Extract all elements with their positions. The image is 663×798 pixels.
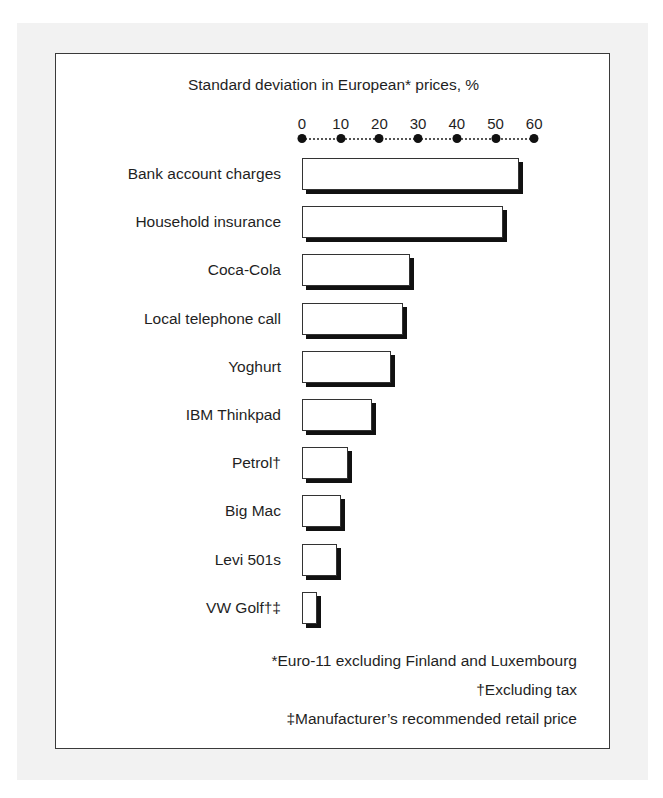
bar-row: Big Mac: [56, 495, 611, 529]
bar-row: Levi 501s: [56, 544, 611, 578]
bar: [302, 351, 391, 383]
bar: [302, 447, 348, 479]
x-tick-label: 40: [448, 115, 465, 132]
bar-row: Bank account charges: [56, 158, 611, 192]
chart-title: Standard deviation in European* prices, …: [56, 76, 611, 94]
bar: [302, 303, 403, 335]
bar: [302, 206, 503, 238]
category-label: IBM Thinkpad: [186, 406, 281, 424]
bar: [302, 254, 410, 286]
bar-row: IBM Thinkpad: [56, 399, 611, 433]
x-tick-dot-icon: [298, 134, 307, 143]
bar-row: Household insurance: [56, 206, 611, 240]
bar: [302, 544, 337, 576]
bar-row: VW Golf†‡: [56, 592, 611, 626]
bar-row: Petrol†: [56, 447, 611, 481]
bar-row: Coca-Cola: [56, 254, 611, 288]
x-tick-dot-icon: [452, 134, 461, 143]
bar: [302, 495, 341, 527]
x-tick-dot-icon: [491, 134, 500, 143]
x-tick-label: 0: [298, 115, 306, 132]
category-label: Coca-Cola: [208, 261, 281, 279]
x-tick-label: 50: [487, 115, 504, 132]
bar-row: Local telephone call: [56, 303, 611, 337]
chart-frame: Standard deviation in European* prices, …: [55, 53, 610, 749]
bar: [302, 399, 372, 431]
category-label: Levi 501s: [215, 551, 281, 569]
category-label: Big Mac: [225, 502, 281, 520]
category-label: Local telephone call: [144, 310, 281, 328]
x-tick-dot-icon: [336, 134, 345, 143]
category-label: Yoghurt: [228, 358, 281, 376]
x-tick-label: 30: [410, 115, 427, 132]
bar: [302, 592, 317, 624]
category-label: Bank account charges: [128, 165, 281, 183]
x-tick-dot-icon: [530, 134, 539, 143]
footnote-text: ‡Manufacturer’s recommended retail price: [286, 710, 577, 728]
x-tick-dot-icon: [375, 134, 384, 143]
category-label: Household insurance: [135, 213, 281, 231]
x-tick-dot-icon: [414, 134, 423, 143]
footnote-text: *Euro-11 excluding Finland and Luxembour…: [271, 652, 577, 670]
category-label: Petrol†: [232, 454, 281, 472]
category-label: VW Golf†‡: [206, 599, 281, 617]
x-tick-label: 60: [526, 115, 543, 132]
bar: [302, 158, 519, 190]
x-tick-label: 20: [371, 115, 388, 132]
x-tick-label: 10: [332, 115, 349, 132]
bar-row: Yoghurt: [56, 351, 611, 385]
footnote-text: †Excluding tax: [476, 681, 577, 699]
